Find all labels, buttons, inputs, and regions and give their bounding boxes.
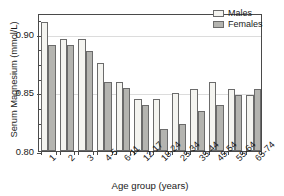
bar-female xyxy=(104,82,111,151)
legend-item-females: Females xyxy=(213,20,263,29)
y-axis-minor-tick xyxy=(38,80,41,81)
y-axis-tick-label: 0.90 xyxy=(4,29,34,40)
y-axis-title: Serum Magnesium (mmol/L) xyxy=(8,5,19,155)
y-axis-tick-label: 0.80 xyxy=(4,146,34,157)
bar-female xyxy=(67,45,74,151)
x-axis-title: Age group (years) xyxy=(38,180,262,191)
y-axis-minor-tick xyxy=(38,65,41,66)
y-axis-minor-tick xyxy=(38,109,41,110)
x-axis-tick xyxy=(74,151,75,155)
legend-label-females: Females xyxy=(228,20,263,29)
x-axis-tick xyxy=(93,151,94,155)
x-axis-tick xyxy=(78,151,79,155)
bar-female xyxy=(123,88,130,151)
plot-area xyxy=(38,14,262,152)
y-axis-minor-tick xyxy=(38,138,41,139)
y-axis-tick xyxy=(37,94,41,95)
bar-female xyxy=(86,51,93,151)
bar-female xyxy=(48,45,55,151)
y-axis-tick-label: 0.85 xyxy=(4,87,34,98)
bar-male xyxy=(60,39,67,151)
x-axis-tick xyxy=(60,151,61,155)
x-axis-tick xyxy=(41,151,42,155)
y-axis-minor-tick xyxy=(38,50,41,51)
bar-male xyxy=(97,63,104,151)
bar-series-container xyxy=(39,15,261,151)
legend-swatch-males xyxy=(213,10,224,17)
bar-male xyxy=(134,99,141,151)
x-axis-tick xyxy=(56,151,57,155)
y-axis-tick xyxy=(37,36,41,37)
y-axis-minor-tick xyxy=(38,124,41,125)
bar-female xyxy=(254,89,261,151)
chart-legend: Males Females xyxy=(213,9,263,31)
legend-swatch-females xyxy=(213,21,224,28)
bar-female xyxy=(235,95,242,151)
chart-figure: Serum Magnesium (mmol/L) 0.800.850.90123… xyxy=(0,0,284,196)
legend-label-males: Males xyxy=(228,9,252,18)
bar-female xyxy=(142,105,149,151)
bar-male xyxy=(41,22,48,151)
bar-male xyxy=(78,39,85,151)
x-axis-tick xyxy=(97,151,98,155)
bar-male xyxy=(116,82,123,151)
legend-item-males: Males xyxy=(213,9,263,18)
y-axis-minor-tick xyxy=(38,21,41,22)
